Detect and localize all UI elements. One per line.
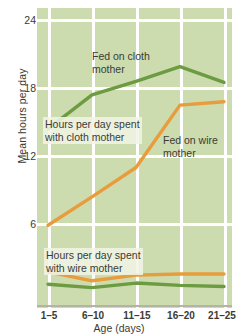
x-tick-label-1-5: 1–5	[41, 310, 58, 321]
y-tick-label-24: 24	[20, 14, 36, 26]
annotation-fed-on-wire-mother: Fed on wire mother	[163, 134, 218, 159]
x-tick-label-16-20: 16–20	[167, 310, 195, 321]
chart-figure: Mean hours per day 24 18 12 6 Fed on cl	[0, 0, 238, 336]
annotation-fed-on-cloth-mother: Fed on cloth mother	[92, 50, 150, 75]
annotation-hours-cloth-mother: Hours per day spent with cloth mother	[43, 117, 142, 144]
series-line-1	[48, 283, 224, 288]
x-tick-label-21-25: 21–25	[208, 310, 236, 321]
y-axis-title: Mean hours per day	[16, 46, 28, 186]
x-tick-label-6-10: 6–10	[82, 310, 104, 321]
annotation-hours-wire-mother: Hours per day spent with wire mother	[44, 248, 143, 275]
x-axis-line	[37, 305, 232, 307]
y-tick-label-18: 18	[20, 82, 36, 94]
x-tick-label-11-15: 11–15	[123, 310, 150, 321]
y-tick-label-12: 12	[20, 150, 36, 162]
x-axis-title: Age (days)	[0, 322, 238, 334]
y-tick-label-6: 6	[20, 218, 36, 230]
